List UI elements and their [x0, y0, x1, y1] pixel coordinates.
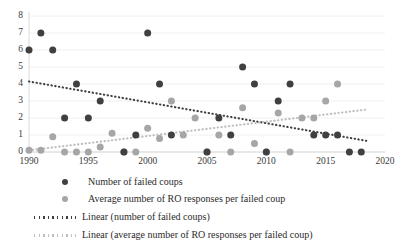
y-axis-tick-label: 7 [9, 28, 23, 38]
y-axis-tick-label: 5 [9, 62, 23, 72]
legend-item-label: Linear (number of failed coups) [82, 212, 210, 222]
y-axis-tick-label: 6 [9, 45, 23, 55]
data-point [251, 81, 258, 88]
data-point [322, 132, 329, 139]
y-axis-tick-label: 4 [9, 79, 23, 89]
x-axis-tick-label: 2000 [131, 157, 165, 167]
legend-marker-dot-icon [62, 196, 68, 202]
x-axis-tick-label: 2005 [190, 157, 224, 167]
data-point [298, 115, 305, 122]
data-point [49, 47, 56, 54]
x-axis-tick-label: 2010 [249, 157, 283, 167]
data-point [156, 135, 163, 142]
legend-item-failed-coups: Number of failed coups [62, 174, 183, 190]
data-point [61, 115, 68, 122]
data-point [263, 149, 270, 156]
x-axis-tick-label: 1995 [71, 157, 105, 167]
x-axis-tick-label: 2020 [368, 157, 402, 167]
data-point [144, 30, 151, 37]
trendline-0 [29, 81, 367, 141]
data-point [97, 143, 104, 150]
data-point [275, 98, 282, 105]
data-point [322, 98, 329, 105]
series-points-failed-coups [26, 30, 365, 156]
legend-item-ro-responses: Average number of RO responses per faile… [62, 191, 285, 207]
data-point [180, 132, 187, 139]
data-point [37, 30, 44, 37]
gridlines [29, 16, 385, 152]
legend-item-label: Linear (average number of RO responses p… [82, 230, 312, 240]
x-axis-tick-label: 2015 [309, 157, 343, 167]
data-point [310, 115, 317, 122]
data-point [334, 81, 341, 88]
data-point [168, 132, 175, 139]
data-point [97, 98, 104, 105]
data-point [132, 149, 139, 156]
data-point [251, 140, 258, 147]
plot-area: 012345678 1990199520002005201020152020 [0, 0, 406, 170]
data-point [26, 147, 33, 154]
data-point [192, 115, 199, 122]
data-point [227, 132, 234, 139]
data-point [215, 115, 222, 122]
data-point [346, 149, 353, 156]
data-point [109, 130, 116, 137]
x-axis-tick-label: 1990 [12, 157, 46, 167]
data-point [85, 115, 92, 122]
data-point [73, 81, 80, 88]
legend-item-label: Average number of RO responses per faile… [88, 194, 285, 204]
legend-marker-dot-icon [62, 179, 68, 185]
y-axis-tick-label: 1 [9, 130, 23, 140]
y-axis-tick-label: 8 [9, 11, 23, 21]
data-point [61, 149, 68, 156]
data-point [26, 47, 33, 54]
legend-dotted-line-icon [34, 216, 76, 219]
legend-item-label: Number of failed coups [88, 177, 183, 187]
data-point [204, 149, 211, 156]
legend-dotted-line-icon [34, 234, 76, 237]
scatter-chart: 012345678 1990199520002005201020152020 N… [0, 0, 406, 246]
data-point [287, 149, 294, 156]
chart-legend: Number of failed coups Average number of… [0, 172, 406, 246]
data-point [168, 98, 175, 105]
data-point [215, 132, 222, 139]
data-point [144, 125, 151, 132]
data-point [227, 149, 234, 156]
legend-item-trend-ro-responses: Linear (average number of RO responses p… [34, 227, 312, 243]
data-point [334, 132, 341, 139]
data-point [358, 149, 365, 156]
data-point [156, 81, 163, 88]
data-point [132, 132, 139, 139]
data-point [239, 104, 246, 111]
data-point [37, 147, 44, 154]
trendline-1 [29, 110, 367, 151]
data-point [85, 149, 92, 156]
data-point [239, 64, 246, 71]
data-point [275, 109, 282, 116]
data-point [73, 149, 80, 156]
legend-item-trend-failed-coups: Linear (number of failed coups) [34, 209, 210, 225]
data-point [49, 133, 56, 140]
plot-canvas [0, 0, 406, 170]
y-axis-tick-label: 3 [9, 96, 23, 106]
y-axis-tick-label: 2 [9, 113, 23, 123]
data-point [120, 149, 127, 156]
data-point [310, 132, 317, 139]
data-point [287, 81, 294, 88]
